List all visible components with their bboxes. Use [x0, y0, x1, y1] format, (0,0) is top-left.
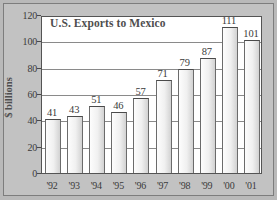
bar-value-label: 101: [234, 28, 268, 39]
y-tick-label: 0: [15, 169, 37, 179]
bar: [111, 112, 127, 173]
y-tick-label: 120: [15, 11, 37, 21]
bar: [133, 98, 149, 173]
bar: [178, 69, 194, 173]
bar: [67, 116, 83, 173]
bar-value-label: 57: [123, 86, 157, 97]
bar-value-label: 43: [57, 104, 91, 115]
bar: [200, 58, 216, 173]
chart-figure: $ billions 020406080100120 U.S. Exports …: [0, 0, 277, 200]
x-tick-label: '01: [234, 180, 268, 191]
bar-value-label: 87: [190, 46, 224, 57]
y-tick-label: 40: [15, 116, 37, 126]
y-axis-ticks: 020406080100120: [11, 0, 37, 200]
chart-title: U.S. Exports to Mexico: [50, 17, 166, 29]
bar: [156, 80, 172, 173]
y-tick-label: 20: [15, 143, 37, 153]
bar: [89, 106, 105, 173]
y-tick-label: 60: [15, 90, 37, 100]
y-tick-label: 80: [15, 64, 37, 74]
bar-value-label: 79: [168, 57, 202, 68]
bar: [244, 40, 260, 173]
bar-value-label: 46: [101, 100, 135, 111]
bar: [222, 27, 238, 173]
y-tick-label: 100: [15, 37, 37, 47]
bar-value-label: 111: [212, 15, 246, 26]
bar: [45, 119, 61, 173]
bar-value-label: 71: [146, 68, 180, 79]
